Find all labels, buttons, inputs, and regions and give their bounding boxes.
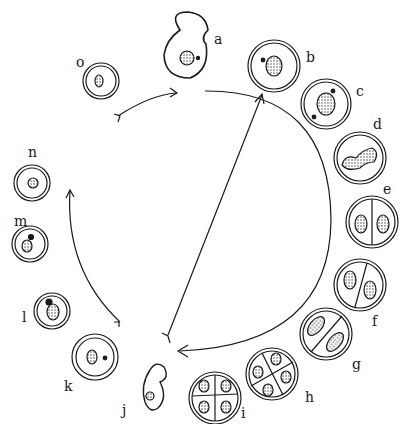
stage-label-l: l xyxy=(22,310,26,324)
stage-label-o: o xyxy=(76,55,84,69)
stage-label-h: h xyxy=(305,390,314,404)
stage-label-d: d xyxy=(373,117,382,131)
stage-label-g: g xyxy=(352,357,361,371)
stage-label-b: b xyxy=(306,50,315,64)
stage-label-e: e xyxy=(383,182,391,196)
life-cycle-diagram xyxy=(0,0,405,424)
stage-label-k: k xyxy=(64,379,72,393)
stage-label-j: j xyxy=(122,403,126,417)
stage-label-m: m xyxy=(14,214,27,228)
stage-label-a: a xyxy=(214,32,222,46)
stage-label-n: n xyxy=(28,145,37,159)
stage-label-c: c xyxy=(356,84,364,98)
stage-label-f: f xyxy=(372,314,377,328)
arc-right xyxy=(180,91,331,351)
stage-label-i: i xyxy=(241,406,245,420)
